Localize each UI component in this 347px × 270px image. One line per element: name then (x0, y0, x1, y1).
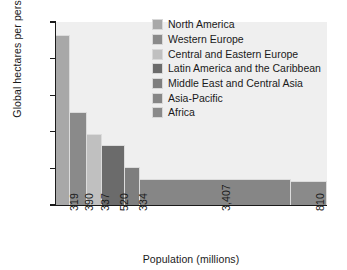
legend-item: North America (152, 18, 321, 32)
x-axis-title: Population (millions) (55, 253, 327, 265)
x-tick-label: 319 (68, 193, 80, 211)
x-tick-label: 390 (83, 193, 95, 211)
ecological-footprint-chart: Global hectares per person 0246810 31939… (0, 0, 347, 270)
bar-western-europe (70, 112, 87, 205)
legend-label: Africa (168, 107, 195, 118)
legend-item: Latin America and the Caribbean (152, 62, 321, 76)
legend-swatch-icon (152, 78, 163, 89)
legend-swatch-icon (152, 49, 163, 60)
legend-item: Africa (152, 106, 321, 120)
legend-label: Middle East and Central Asia (168, 78, 303, 89)
legend-label: Central and Eastern Europe (168, 49, 298, 60)
legend-swatch-icon (152, 107, 163, 118)
bar-asia-pacific (140, 179, 291, 205)
legend: North AmericaWestern EuropeCentral and E… (152, 18, 321, 120)
bar-north-america (56, 35, 70, 205)
legend-label: North America (168, 19, 235, 30)
x-tick-label: 334 (137, 193, 149, 211)
legend-item: Middle East and Central Asia (152, 77, 321, 91)
legend-swatch-icon (152, 63, 163, 74)
y-tick-mark (50, 21, 56, 22)
x-tick-label: 337 (99, 193, 111, 211)
x-tick-label: 3,407 (220, 184, 232, 211)
x-tick-label: 810 (314, 193, 326, 211)
legend-label: Latin America and the Caribbean (168, 63, 321, 74)
legend-label: Asia-Pacific (168, 93, 223, 104)
x-tick-label: 520 (118, 193, 130, 211)
legend-item: Central and Eastern Europe (152, 47, 321, 61)
legend-swatch-icon (152, 34, 163, 45)
legend-swatch-icon (152, 19, 163, 30)
legend-label: Western Europe (168, 34, 244, 45)
y-axis-title: Global hectares per person (11, 0, 23, 148)
legend-item: Asia-Pacific (152, 91, 321, 105)
legend-item: Western Europe (152, 33, 321, 47)
legend-swatch-icon (152, 93, 163, 104)
